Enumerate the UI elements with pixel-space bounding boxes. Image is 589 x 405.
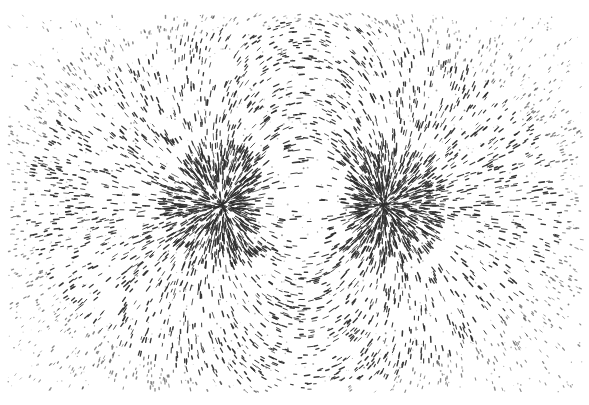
iron-filings-photo (0, 0, 589, 405)
magnetic-field-lines (0, 0, 589, 405)
